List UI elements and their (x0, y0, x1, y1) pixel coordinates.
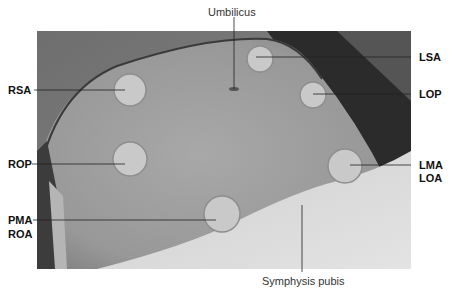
pma-circle (204, 196, 240, 232)
label-lsa: LSA (419, 50, 441, 64)
abdomen-photo (37, 31, 411, 269)
label-symphysis-pubis: Symphysis pubis (262, 274, 345, 288)
rop-circle (113, 142, 147, 176)
rsa-circle (114, 74, 146, 106)
label-roa: ROA (8, 227, 32, 241)
label-umbilicus: Umbilicus (208, 5, 256, 19)
umbilicus-mark (229, 87, 239, 91)
label-rsa: RSA (8, 83, 31, 97)
label-lma: LMA (419, 158, 443, 172)
lop-circle (300, 82, 326, 108)
label-pma: PMA (8, 213, 32, 227)
label-loa: LOA (419, 171, 442, 185)
lma-circle (328, 149, 362, 183)
label-rop: ROP (8, 157, 32, 171)
label-lop: LOP (419, 87, 442, 101)
abdomen-illustration (37, 31, 411, 269)
lsa-circle (247, 46, 273, 72)
